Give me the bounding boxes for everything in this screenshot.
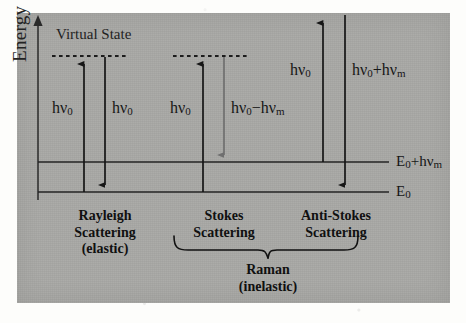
antistokes-arrows xyxy=(323,15,345,185)
category-stokes: Stokes Scattering xyxy=(172,208,276,241)
E0-plus-hvm-sub2: m xyxy=(433,158,442,170)
category-rayleigh: Rayleigh Scattering (elastic) xyxy=(52,208,158,258)
hv0-stokes-up-sub: 0 xyxy=(185,105,191,117)
E0-base: E xyxy=(396,183,405,199)
rayleigh-arrows xyxy=(84,57,105,192)
group-raman-line2: (inelastic) xyxy=(213,279,323,296)
E0-plus-hvm-base: E xyxy=(396,153,405,169)
virtual-state-label: Virtual State xyxy=(56,27,131,42)
label-hv0-rayleigh-down: hν0 xyxy=(112,100,133,117)
hv0-minus-hvm-base: hν xyxy=(231,99,246,116)
energy-axis-label: Energy xyxy=(10,6,29,62)
E0-sub: 0 xyxy=(405,188,411,200)
label-hv0-rayleigh-up: hν0 xyxy=(52,100,73,117)
label-E0: E0 xyxy=(396,184,411,200)
E0-plus-hvm-mid: +hν xyxy=(411,153,434,169)
hv0-rayleigh-down-base: hν xyxy=(112,99,127,116)
stokes-arrows xyxy=(203,57,224,192)
label-hv0-stokes-up: hν0 xyxy=(170,100,191,117)
category-anti-stokes-line1: Anti-Stokes xyxy=(281,208,391,225)
group-raman: Raman (inelastic) xyxy=(213,262,323,296)
label-hv0-plus-hvm: hν0+hνm xyxy=(352,62,406,79)
figure-root: Energy Virtual State hν0 hν0 hν0 hν0−hνm… xyxy=(0,0,466,323)
hv0-plus-hvm-mid: +hν xyxy=(373,61,397,78)
hv0-minus-hvm-mid: −hν xyxy=(252,99,276,116)
energy-axis-arrowhead xyxy=(33,15,42,26)
hv0-rayleigh-up-sub: 0 xyxy=(67,105,73,117)
hv0-plus-hvm-sub2: m xyxy=(397,67,406,79)
hv0-rayleigh-up-base: hν xyxy=(52,99,67,116)
category-stokes-line1: Stokes xyxy=(172,208,276,225)
hv0-stokes-up-base: hν xyxy=(170,99,185,116)
category-anti-stokes-line2: Scattering xyxy=(281,225,391,242)
category-rayleigh-line3: (elastic) xyxy=(52,241,158,258)
label-hv0-minus-hvm: hν0−hνm xyxy=(231,100,285,117)
energy-levels xyxy=(38,162,389,192)
hv0-rayleigh-down-sub: 0 xyxy=(127,105,133,117)
category-stokes-line2: Scattering xyxy=(172,225,276,242)
hv0-plus-hvm-base: hν xyxy=(352,61,367,78)
hv0-minus-hvm-sub2: m xyxy=(276,105,285,117)
group-raman-line1: Raman xyxy=(213,262,323,279)
hv0-antistokes-up-base: hν xyxy=(290,61,305,78)
category-anti-stokes: Anti-Stokes Scattering xyxy=(281,208,391,241)
hv0-antistokes-up-sub: 0 xyxy=(305,67,311,79)
label-hv0-antistokes-up: hν0 xyxy=(290,62,311,79)
label-E0-plus-hvm: E0+hνm xyxy=(396,154,442,170)
category-rayleigh-line1: Rayleigh xyxy=(52,208,158,225)
energy-axis xyxy=(33,15,42,200)
category-rayleigh-line2: Scattering xyxy=(52,225,158,242)
